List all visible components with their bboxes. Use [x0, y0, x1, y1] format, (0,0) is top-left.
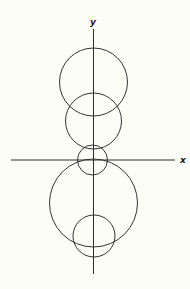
circles-on-y-axis-diagram: x y: [0, 0, 190, 289]
x-axis-label: x: [179, 155, 187, 165]
y-axis-label: y: [90, 17, 97, 27]
